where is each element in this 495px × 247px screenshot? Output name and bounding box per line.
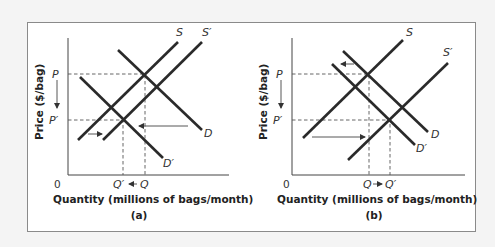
label-s-prime: S′ <box>202 26 212 39</box>
label-d-prime: D′ <box>416 142 427 155</box>
demand-curve-d-prime <box>80 77 163 158</box>
x-axis-title: Quantity (millions of bags/month) <box>53 193 253 205</box>
panel-caption: (a) <box>131 209 148 221</box>
panel-caption: (b) <box>365 209 382 221</box>
label-p-prime: P′ <box>273 114 283 127</box>
label-q-prime: Q′ <box>385 178 397 191</box>
label-s: S <box>176 26 183 39</box>
p-guide <box>68 74 145 175</box>
demand-curve-d-prime <box>332 64 415 145</box>
x-axis-title: Quantity (millions of bags/month) <box>277 193 477 205</box>
label-q: Q <box>363 178 372 191</box>
y-axis-title: Price ($/bag) <box>257 64 269 140</box>
label-q-prime: Q′ <box>113 178 125 191</box>
label-s: S <box>406 26 413 39</box>
p-prime-guide <box>292 120 390 175</box>
panel-a: S S′ D D′ P P′ Q′ Q 0 Quantity (millions… <box>33 26 253 221</box>
y-axis-title: Price ($/bag) <box>33 64 45 140</box>
origin-label: 0 <box>283 178 290 190</box>
label-q: Q <box>140 178 149 191</box>
panel-b: S S′ D D′ P P′ Q Q′ 0 Quantity (millions… <box>257 26 477 221</box>
label-p: P <box>52 68 59 81</box>
supply-demand-diagram: S S′ D D′ P P′ Q′ Q 0 Quantity (millions… <box>0 0 495 247</box>
label-d: D <box>431 128 439 141</box>
supply-curve-s <box>303 40 403 138</box>
label-d: D <box>204 127 212 140</box>
label-d-prime: D′ <box>163 157 174 170</box>
label-s-prime: S′ <box>443 46 453 59</box>
label-p-prime: P′ <box>49 114 59 127</box>
supply-curve-s-prime <box>103 42 202 140</box>
label-p: P <box>276 68 283 81</box>
origin-label: 0 <box>54 178 61 190</box>
